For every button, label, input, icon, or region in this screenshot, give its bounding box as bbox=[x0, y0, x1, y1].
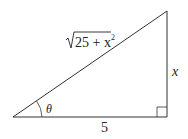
triangle bbox=[13, 11, 167, 117]
triangle-figure: 25 + x2 x θ 5 bbox=[0, 0, 188, 139]
right-angle-marker bbox=[157, 107, 167, 117]
adjacent-side-label: 5 bbox=[101, 120, 108, 135]
angle-arc bbox=[37, 101, 43, 117]
right-triangle-diagram: 25 + x2 x θ 5 bbox=[0, 0, 188, 139]
opposite-side-label: x bbox=[171, 64, 179, 79]
hypotenuse-label: 25 + x2 bbox=[75, 33, 115, 50]
angle-label: θ bbox=[46, 102, 52, 116]
